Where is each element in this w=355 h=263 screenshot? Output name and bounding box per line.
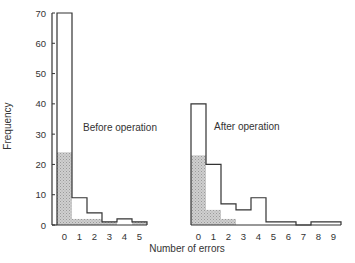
y-tick-label: 10 — [35, 189, 46, 200]
y-tick-label: 20 — [35, 159, 46, 170]
x-tick-label: 2 — [92, 231, 97, 242]
x-tick-labels: 0123450123456789 — [62, 231, 336, 242]
x-tick-label: 0 — [196, 231, 201, 242]
x-tick-label: 1 — [211, 231, 216, 242]
before-operation-histogram — [57, 13, 147, 225]
x-tick-label: 0 — [62, 231, 67, 242]
x-tick-label: 5 — [137, 231, 142, 242]
shaded-bar — [72, 219, 87, 225]
y-tick-label: 50 — [35, 68, 46, 79]
x-tick-label: 7 — [301, 231, 306, 242]
x-tick-label: 6 — [286, 231, 291, 242]
x-axis-title: Number of errors — [149, 243, 225, 254]
y-axis: 010203040506070 — [35, 8, 57, 231]
x-tick-label: 3 — [241, 231, 246, 242]
histogram-chart: 010203040506070 0123450123456789 Frequen… — [0, 0, 355, 263]
y-tick-label: 40 — [35, 98, 46, 109]
after-operation-label: After operation — [214, 121, 280, 132]
x-tick-label: 1 — [77, 231, 82, 242]
shaded-bar — [87, 219, 102, 225]
shaded-bar — [191, 155, 206, 225]
x-tick-label: 4 — [256, 231, 261, 242]
before-operation-label: Before operation — [83, 122, 157, 133]
y-tick-label: 60 — [35, 38, 46, 49]
y-axis-title: Frequency — [2, 102, 13, 149]
shaded-bar — [206, 210, 221, 225]
x-tick-label: 8 — [316, 231, 321, 242]
x-tick-label: 9 — [331, 231, 336, 242]
shaded-bar — [221, 219, 236, 225]
x-tick-label: 2 — [226, 231, 231, 242]
x-tick-label: 5 — [271, 231, 276, 242]
y-tick-label: 0 — [41, 220, 46, 231]
x-tick-label: 3 — [107, 231, 112, 242]
x-tick-label: 4 — [122, 231, 127, 242]
y-tick-label: 30 — [35, 129, 46, 140]
y-tick-label: 70 — [35, 8, 46, 19]
shaded-bar — [57, 152, 72, 225]
